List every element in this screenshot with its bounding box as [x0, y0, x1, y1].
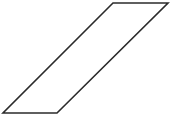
- parallelogram-diagram: [0, 0, 170, 118]
- figure-canvas: [0, 0, 170, 118]
- parallelogram-shape: [3, 3, 168, 113]
